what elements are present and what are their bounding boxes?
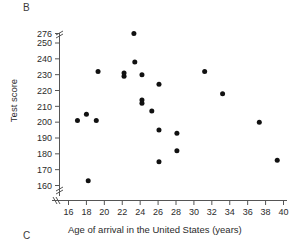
- data-point-2: [86, 178, 91, 183]
- y-tick-label-170: 170: [37, 165, 52, 175]
- data-point-19: [220, 91, 225, 96]
- data-point-15: [156, 159, 161, 164]
- data-point-12: [149, 109, 154, 114]
- x-tick-label-40: 40: [278, 207, 288, 217]
- x-axis-tick-labels: 16182022242628303234363840: [63, 207, 288, 217]
- data-point-0: [75, 118, 80, 123]
- data-point-11: [139, 101, 144, 106]
- data-point-1: [84, 112, 89, 117]
- y-tick-label-276: 276: [37, 29, 52, 39]
- data-point-4: [96, 69, 101, 74]
- data-points: [75, 31, 280, 183]
- y-tick-label-160: 160: [37, 181, 52, 191]
- x-axis-ticks: [69, 201, 284, 206]
- data-point-21: [275, 158, 280, 163]
- data-point-7: [131, 31, 136, 36]
- x-tick-label-34: 34: [225, 207, 235, 217]
- data-point-6: [122, 74, 127, 79]
- figure-panel-b: B C Test score Age of arrival in the Uni…: [0, 0, 298, 247]
- y-tick-label-250: 250: [37, 38, 52, 48]
- x-tick-label-26: 26: [153, 207, 163, 217]
- y-tick-label-200: 200: [37, 117, 52, 127]
- y-tick-label-210: 210: [37, 102, 52, 112]
- data-point-8: [132, 60, 137, 65]
- scatter-plot: 160170180190200210220230240250276 161820…: [0, 0, 298, 247]
- y-tick-label-180: 180: [37, 149, 52, 159]
- x-tick-label-22: 22: [117, 207, 127, 217]
- x-axis: 16182022242628303234363840: [52, 197, 289, 217]
- x-tick-label-28: 28: [171, 207, 181, 217]
- x-tick-label-36: 36: [243, 207, 253, 217]
- y-tick-label-220: 220: [37, 86, 52, 96]
- data-point-13: [156, 82, 161, 87]
- x-tick-label-32: 32: [207, 207, 217, 217]
- data-point-20: [257, 120, 262, 125]
- data-point-14: [156, 128, 161, 133]
- x-tick-label-20: 20: [99, 207, 109, 217]
- y-axis-tick-labels: 160170180190200210220230240250276: [37, 29, 52, 191]
- data-point-17: [174, 148, 179, 153]
- data-point-3: [94, 118, 99, 123]
- x-tick-label-30: 30: [189, 207, 199, 217]
- x-tick-label-18: 18: [81, 207, 91, 217]
- x-tick-label-24: 24: [135, 207, 145, 217]
- y-tick-label-190: 190: [37, 133, 52, 143]
- data-point-18: [202, 69, 207, 74]
- data-point-9: [139, 72, 144, 77]
- y-axis-ticks: [55, 34, 60, 186]
- x-tick-label-16: 16: [63, 207, 73, 217]
- y-tick-label-240: 240: [37, 54, 52, 64]
- y-tick-label-230: 230: [37, 70, 52, 80]
- data-point-16: [174, 131, 179, 136]
- y-axis: 160170180190200210220230240250276: [37, 29, 63, 196]
- x-tick-label-38: 38: [261, 207, 271, 217]
